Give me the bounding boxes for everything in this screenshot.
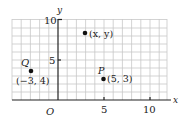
point-q-name: Q <box>21 57 29 68</box>
x-tick-label-10: 10 <box>143 104 156 115</box>
point-xy-label: (x, y) <box>89 28 113 39</box>
y-axis-label: y <box>56 5 63 15</box>
point-q-label: (−3, 4) <box>16 75 50 86</box>
coordinate-plane: y x O 10 5 5 10 (x, y) P (5, 3) Q (−3, 4… <box>0 0 182 121</box>
x-tick-label-5: 5 <box>101 104 107 115</box>
point-p-name: P <box>97 65 105 76</box>
y-tick-label-10: 10 <box>44 15 57 26</box>
point-xy: (x, y) <box>83 28 113 39</box>
origin-label: O <box>46 106 54 117</box>
point-p-label: (5, 3) <box>107 73 133 84</box>
x-axis-label: x <box>173 95 178 105</box>
y-tick-label-5: 5 <box>49 55 55 66</box>
